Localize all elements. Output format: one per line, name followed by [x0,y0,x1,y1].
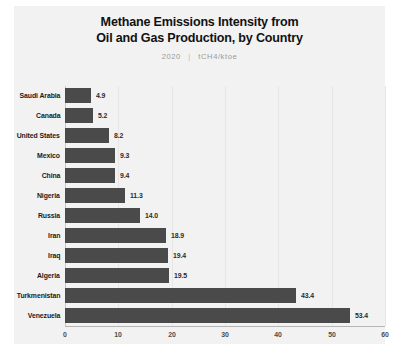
bar-rect [65,88,91,103]
bar-rect [65,188,125,203]
bar-rect [65,308,350,323]
bar-rect [65,208,140,223]
bar-row: Algeria19.5 [65,266,385,286]
bar-value-label: 53.4 [355,306,368,326]
bar-rect [65,248,168,263]
bar-rect [65,288,296,303]
bar-value-label: 14.0 [145,206,158,226]
bar-category-label: China [41,166,60,186]
bar-value-label: 18.9 [171,226,184,246]
x-tick-label: 40 [274,330,282,339]
bar-row: Turkmenistan43.4 [65,286,385,306]
x-tick-label: 50 [328,330,336,339]
chart-subtitle: 2020 | tCH4/ktoe [23,52,375,62]
bar-category-label: Russia [38,206,60,226]
bar-value-label: 4.9 [96,86,105,106]
chart-header: Methane Emissions Intensity from Oil and… [14,14,385,62]
bar-value-label: 8.2 [114,126,123,146]
bar-row: Iraq19.4 [65,246,385,266]
bar-value-label: 9.4 [120,166,129,186]
bar-category-label: Algeria [37,266,60,286]
bar-value-label: 9.3 [120,146,129,166]
x-tick-label: 10 [114,330,122,339]
bar-category-label: Nigeria [37,186,60,206]
x-tick-label: 60 [381,330,389,339]
bar-row: Mexico9.3 [65,146,385,166]
bar-row: Saudi Arabia4.9 [65,86,385,106]
bar-row: Venezuela53.4 [65,306,385,326]
subtitle-year: 2020 [162,52,181,61]
page-title-line-1: Methane Emissions Intensity from [27,14,372,30]
bar-category-label: Saudi Arabia [19,86,60,106]
x-axis-line [65,326,385,327]
bar-rect [65,148,115,163]
chart-canvas: Methane Emissions Intensity from Oil and… [14,6,385,344]
plot-area: Saudi Arabia4.9Canada5.2United States8.2… [65,86,385,326]
gridline-60 [385,86,386,326]
bar-category-label: Venezuela [27,306,60,326]
bar-row: China9.4 [65,166,385,186]
bar-category-label: Iran [48,226,60,246]
bar-rect [65,268,169,283]
bar-row: Nigeria11.3 [65,186,385,206]
bar-rect [65,128,109,143]
bar-row: Iran18.9 [65,226,385,246]
x-tick-label: 30 [221,330,229,339]
bar-value-label: 43.4 [301,286,314,306]
bar-category-label: Turkmenistan [16,286,60,306]
bar-category-label: Canada [36,106,60,126]
bar-category-label: Iraq [48,246,60,266]
bar-row: United States8.2 [65,126,385,146]
bar-category-label: Mexico [37,146,60,166]
bar-rect [65,108,93,123]
x-tick-label: 20 [168,330,176,339]
bar-category-label: United States [17,126,60,146]
bar-value-label: 19.4 [173,246,186,266]
subtitle-separator: | [188,52,191,61]
x-axis-tick-labels: 0102030405060 [65,330,385,344]
bar-value-label: 11.3 [130,186,143,206]
x-tick-label: 0 [63,330,67,339]
bar-rect [65,228,166,243]
bar-rect [65,168,115,183]
subtitle-units: tCH4/ktoe [198,52,237,61]
bars-layer: Saudi Arabia4.9Canada5.2United States8.2… [65,86,385,326]
bar-row: Canada5.2 [65,106,385,126]
page-title-line-2: Oil and Gas Production, by Country [27,30,372,46]
bar-value-label: 5.2 [98,106,107,126]
bar-value-label: 19.5 [174,266,187,286]
bar-row: Russia14.0 [65,206,385,226]
